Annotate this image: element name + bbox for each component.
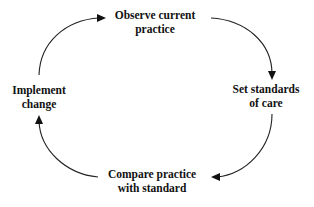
node-label-line2: practice xyxy=(115,23,196,37)
node-label-line1: Implement xyxy=(12,84,66,98)
arrow-implement-to-observe xyxy=(39,14,106,75)
node-label-line1: Set standards xyxy=(233,83,300,97)
arrow-observe-to-standards xyxy=(211,18,276,80)
node-label-line2: with standard xyxy=(108,182,196,196)
arrow-standards-to-compare xyxy=(211,114,272,181)
node-label-line2: of care xyxy=(233,97,300,111)
arrowhead-left-icon xyxy=(211,173,220,181)
arrow-compare-to-implement xyxy=(35,115,98,177)
node-label-line1: Observe current xyxy=(115,9,196,23)
audit-cycle-diagram: Observe current practice Set standards o… xyxy=(0,0,314,207)
node-label-line1: Compare practice xyxy=(108,168,196,182)
node-observe-current-practice: Observe current practice xyxy=(115,9,196,36)
node-implement-change: Implement change xyxy=(12,84,66,111)
node-set-standards-of-care: Set standards of care xyxy=(233,83,300,110)
arrowhead-up-icon xyxy=(35,115,43,124)
arrowhead-down-icon xyxy=(268,71,276,80)
arrowhead-right-icon xyxy=(97,14,106,22)
node-label-line2: change xyxy=(12,98,66,112)
node-compare-practice-with-standard: Compare practice with standard xyxy=(108,168,196,195)
